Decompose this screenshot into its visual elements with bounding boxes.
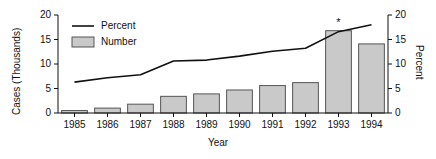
y-tick-label-left-15: 15 [40, 35, 51, 45]
y-tick-label-left-10: 10 [40, 59, 51, 69]
x-tick-label-1987: 1987 [129, 120, 151, 130]
x-axis-title: Year [208, 138, 228, 148]
bar-1986 [95, 108, 121, 113]
x-tick-label-1988: 1988 [162, 120, 184, 130]
x-tick-label-1991: 1991 [261, 120, 283, 130]
legend-label-number: Number [101, 37, 137, 47]
bar-1991 [260, 86, 286, 113]
x-tick-label-1986: 1986 [96, 120, 118, 130]
x-tick-label-1989: 1989 [195, 120, 217, 130]
bar-1989 [194, 94, 220, 113]
x-tick-label-1992: 1992 [294, 120, 316, 130]
y-tick-label-right-15: 15 [395, 35, 406, 45]
y-tick-label-right-20: 20 [395, 10, 406, 20]
legend-label-percent: Percent [101, 21, 135, 31]
bar-1993 [326, 31, 352, 113]
y-tick-label-left-0: 0 [45, 108, 51, 118]
bar-1987 [128, 104, 154, 113]
y-tick-label-right-10: 10 [395, 59, 406, 69]
chart-plot-area [0, 0, 436, 159]
bar-1990 [227, 90, 253, 113]
x-tick-label-1985: 1985 [63, 120, 85, 130]
bar-1988 [161, 96, 187, 113]
y-axis-right-title: Percent [414, 45, 424, 79]
y-tick-label-right-5: 5 [395, 84, 401, 94]
y-tick-label-left-5: 5 [45, 84, 51, 94]
x-tick-label-1993: 1993 [327, 120, 349, 130]
x-tick-label-1990: 1990 [228, 120, 250, 130]
annotation-asterisk-1993: * [336, 17, 340, 28]
y-tick-label-right-0: 0 [395, 108, 401, 118]
y-axis-left-title: Cases (Thousands) [12, 28, 22, 115]
bar-1994 [359, 44, 385, 113]
chart-container: Cases (Thousands) Percent Year 051015200… [0, 0, 436, 159]
bar-1992 [293, 83, 319, 113]
legend-marker-number [72, 37, 94, 47]
x-tick-label-1994: 1994 [360, 120, 382, 130]
y-tick-label-left-20: 20 [40, 10, 51, 20]
